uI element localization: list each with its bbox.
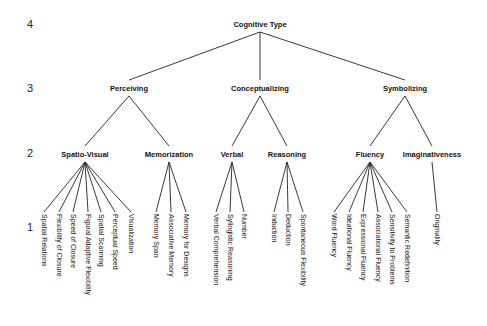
- leaf-node: Visualization: [128, 214, 135, 253]
- level-number-1: 1: [27, 221, 33, 233]
- edge-line: [85, 96, 129, 146]
- edge-line: [129, 32, 260, 80]
- edge-line: [230, 162, 232, 212]
- node-memorization: Memorization: [145, 150, 193, 159]
- node-spatio-visual: Spatio-Visual: [61, 150, 108, 159]
- leaf-node: Memory Span: [153, 214, 160, 258]
- edge-line: [216, 162, 232, 212]
- leaf-node: Spatial Scanning: [98, 214, 105, 267]
- leaf-node: Sensitivity to Problems: [389, 214, 396, 285]
- leaf-node: Associational Fluency: [375, 214, 382, 282]
- node-reasoning: Reasoning: [268, 150, 306, 159]
- edge-line: [260, 96, 287, 146]
- leaf-node: Spatial Relations: [41, 214, 48, 267]
- edge-line: [232, 96, 260, 146]
- leaf-node: Syllogistic Reasoning: [227, 214, 234, 281]
- node-conceptualizing: Conceptualizing: [231, 84, 289, 93]
- level-number-3: 3: [27, 82, 33, 94]
- edge-line: [85, 162, 115, 212]
- node-imaginativeness: Imaginativeness: [403, 150, 461, 159]
- tree-edges: [0, 0, 487, 326]
- leaf-node: Associative Memory: [168, 214, 175, 277]
- node-symbolizing: Symbolizing: [383, 84, 427, 93]
- edge-line: [260, 32, 405, 80]
- edge-line: [169, 162, 171, 212]
- leaf-node: Semantic Redefinition: [404, 214, 411, 282]
- edge-line: [432, 162, 437, 212]
- edge-line: [287, 162, 288, 212]
- leaf-node: Word Fluency: [331, 214, 338, 257]
- leaf-node: Verbal Comprehension: [213, 214, 220, 285]
- level-number-4: 4: [27, 18, 33, 30]
- leaf-node: Figural Adaptive Flexibility: [85, 214, 92, 295]
- leaf-node: Flexibility of Closure: [56, 214, 63, 277]
- edge-line: [405, 96, 432, 146]
- leaf-node: Spontaneous Flexibility: [300, 214, 307, 286]
- leaf-node: Induction: [271, 214, 278, 242]
- edge-line: [274, 162, 287, 212]
- leaf-node: Number: [241, 214, 248, 239]
- edge-line: [169, 162, 186, 212]
- edge-line: [85, 162, 131, 212]
- edge-line: [370, 162, 378, 212]
- edge-line: [156, 162, 169, 212]
- edge-line: [59, 162, 85, 212]
- leaf-node: Perceptual Speed: [112, 214, 119, 270]
- level-number-2: 2: [27, 147, 33, 159]
- node-perceiving: Perceiving: [110, 84, 148, 93]
- leaf-node: Originality: [434, 214, 441, 245]
- leaf-node: Expressional Fluency: [360, 214, 367, 281]
- leaf-node: Ideational Fluency: [346, 214, 353, 271]
- leaf-node: Speed of Closure: [70, 214, 77, 268]
- leaf-node: Memory for Designs: [183, 214, 190, 277]
- root-node-cognitive-type: Cognitive Type: [233, 20, 286, 29]
- edge-line: [370, 96, 405, 146]
- leaf-node: Deduction: [285, 214, 292, 246]
- edge-line: [287, 162, 303, 212]
- edge-line: [232, 162, 244, 212]
- edge-line: [129, 96, 169, 146]
- node-fluency: Fluency: [356, 150, 384, 159]
- node-verbal: Verbal: [221, 150, 244, 159]
